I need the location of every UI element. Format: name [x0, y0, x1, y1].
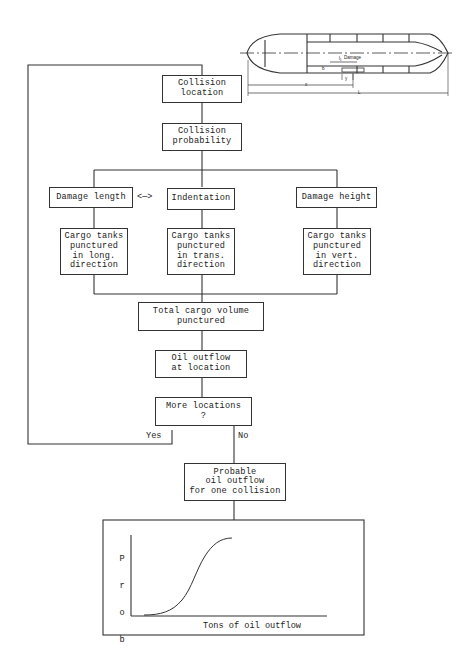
collision-location-box: Collision location — [162, 75, 242, 103]
bidirectional-arrow-icon: <—> — [137, 192, 152, 202]
y-axis-label: P r o b — [117, 537, 127, 654]
damage-height-box: Damage height — [296, 187, 377, 208]
yes-label: Yes — [146, 431, 161, 441]
b-label: b — [322, 66, 325, 71]
damage-label: Damage — [344, 55, 361, 60]
collision-probability-box: Collision probability — [162, 123, 242, 151]
y-label: y — [345, 76, 347, 81]
x-axis-label: Tons of oil outflow — [203, 621, 301, 631]
tanks-vert-box: Cargo tanks punctured in vert. direction — [303, 228, 371, 275]
total-volume-box: Total cargo volume punctured — [138, 302, 264, 331]
probable-outflow-box: Probable oil outflow for one collision — [184, 463, 286, 501]
no-label: No — [238, 431, 248, 441]
indentation-box: Indentation — [167, 188, 235, 210]
damage-length-box: Damage length — [49, 187, 133, 208]
tanks-trans-box: Cargo tanks punctured in trans. directio… — [167, 228, 235, 275]
s-curve — [144, 538, 232, 615]
L-label: L — [358, 90, 361, 95]
more-locations-box: More locations ? — [155, 397, 252, 426]
ship-sketch — [240, 34, 455, 96]
oil-outflow-location-box: Oil outflow at location — [155, 350, 247, 378]
chart-frame — [103, 520, 364, 635]
x-label: x — [305, 82, 307, 87]
l1-label: l₁ — [339, 56, 342, 61]
tanks-long-box: Cargo tanks punctured in long. direction — [60, 228, 128, 275]
